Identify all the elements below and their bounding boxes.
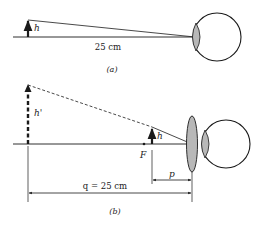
q-label: q = 25 cm — [83, 181, 127, 191]
caption-b: (b) — [109, 207, 120, 216]
image-label-b: h' — [34, 108, 42, 118]
focal-point-dot — [143, 143, 146, 146]
caption-a: (a) — [106, 65, 117, 74]
distance-label-a: 25 cm — [95, 42, 121, 52]
ray-a — [28, 20, 195, 37]
virtual-ray-b — [28, 85, 152, 127]
magnifier-diagram: h 25 cm (a) h' h F — [0, 0, 271, 226]
eye-icon-a — [193, 13, 242, 61]
figure-a: h 25 cm (a) — [13, 13, 241, 74]
focal-label: F — [139, 150, 147, 160]
magnifying-lens — [187, 116, 198, 172]
p-label: p — [169, 169, 175, 179]
figure-b: h' h F p q = 25 cm (b) — [13, 84, 250, 216]
eye-icon-b — [202, 120, 251, 168]
object-label-b: h — [157, 131, 163, 141]
object-label-a: h — [34, 23, 40, 33]
